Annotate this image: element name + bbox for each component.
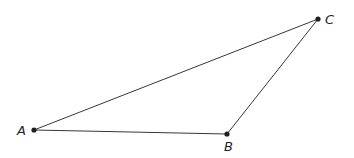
- label-c: C: [325, 12, 335, 27]
- segment-ca: [34, 19, 318, 130]
- triangle-diagram: A B C: [0, 0, 354, 158]
- point-a: [31, 127, 36, 132]
- diagram-svg: A B C: [0, 0, 354, 158]
- label-a: A: [16, 123, 26, 138]
- segment-bc: [227, 19, 318, 134]
- segment-ab: [34, 130, 227, 134]
- point-c: [315, 16, 320, 21]
- label-b: B: [224, 139, 233, 154]
- point-b: [224, 131, 229, 136]
